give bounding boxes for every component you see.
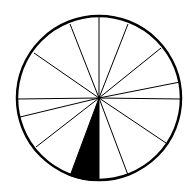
spoke-line [99, 98, 181, 99]
divided-circle-diagram [0, 0, 191, 193]
spoke-line [99, 82, 180, 98]
spoke-line [17, 98, 99, 99]
spoke-line [99, 98, 166, 143]
spoke-line [99, 98, 128, 175]
spoke-line [70, 24, 99, 98]
spoke-line [34, 53, 99, 98]
